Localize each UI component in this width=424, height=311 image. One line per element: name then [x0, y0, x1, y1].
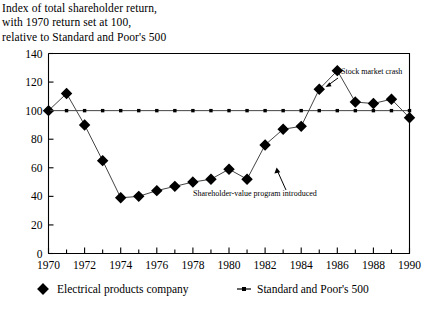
- x-axis-tick-labels: 1970197219741976197819801982198419861988…: [37, 259, 421, 271]
- chart-svg: 020406080100120140 197019721974197619781…: [0, 0, 424, 311]
- data-point: [98, 156, 107, 165]
- svg-text:1974: 1974: [109, 259, 132, 271]
- legend-marker-diamond: [38, 284, 48, 294]
- data-point: [152, 186, 161, 195]
- svg-text:20: 20: [31, 219, 43, 231]
- data-point: [297, 122, 306, 131]
- data-point: [188, 177, 197, 186]
- data-point: [224, 165, 233, 174]
- svg-text:1988: 1988: [362, 259, 385, 271]
- svg-text:40: 40: [31, 190, 43, 202]
- svg-text:140: 140: [25, 48, 43, 60]
- data-point: [281, 109, 284, 112]
- data-point: [47, 109, 50, 112]
- data-series-layer: [44, 66, 414, 202]
- data-point: [408, 109, 411, 112]
- data-point: [263, 109, 266, 112]
- legend-label: Standard and Poor's 500: [257, 283, 369, 295]
- chart-container: Index of total shareholder return, with …: [0, 0, 424, 311]
- data-point: [65, 109, 68, 112]
- legend-marker-square: [242, 287, 246, 291]
- svg-text:1972: 1972: [73, 259, 96, 271]
- data-point: [155, 109, 158, 112]
- svg-text:1980: 1980: [218, 259, 241, 271]
- svg-text:1970: 1970: [37, 259, 60, 271]
- data-point: [351, 97, 360, 106]
- data-point: [336, 109, 339, 112]
- svg-text:1978: 1978: [181, 259, 204, 271]
- svg-text:60: 60: [31, 162, 43, 174]
- svg-text:1976: 1976: [145, 259, 168, 271]
- svg-text:1986: 1986: [326, 259, 349, 271]
- data-point: [242, 175, 251, 184]
- data-point: [227, 109, 230, 112]
- plot-frame: [49, 54, 410, 254]
- data-point: [318, 109, 321, 112]
- data-point: [245, 109, 248, 112]
- data-point: [83, 109, 86, 112]
- annotation-layer: Stock market crashShareholder-value prog…: [193, 67, 402, 198]
- data-point: [119, 109, 122, 112]
- legend-item-electrical-products-company: Electrical products company: [38, 283, 189, 296]
- data-point: [191, 109, 194, 112]
- chart-legend: Electrical products companyStandard and …: [38, 283, 369, 296]
- data-point: [209, 109, 212, 112]
- data-point: [80, 120, 89, 129]
- svg-text:80: 80: [31, 133, 43, 145]
- annotation-shareholder-value-program: Shareholder-value program introduced: [193, 189, 317, 198]
- legend-item-standard-and-poors-500: Standard and Poor's 500: [237, 283, 369, 295]
- annotation-stock-market-crash: Stock market crash: [341, 67, 402, 76]
- data-point: [372, 109, 375, 112]
- data-point: [300, 109, 303, 112]
- data-point: [116, 193, 125, 202]
- data-point: [101, 109, 104, 112]
- svg-text:120: 120: [25, 76, 43, 88]
- svg-text:1982: 1982: [254, 259, 277, 271]
- svg-text:100: 100: [25, 105, 43, 117]
- axis-tick-marks: [49, 54, 410, 254]
- legend-label: Electrical products company: [57, 283, 189, 296]
- data-point: [137, 109, 140, 112]
- data-point: [206, 175, 215, 184]
- data-point: [173, 109, 176, 112]
- svg-text:1984: 1984: [290, 259, 313, 271]
- y-axis-tick-labels: 020406080100120140: [25, 48, 43, 260]
- svg-text:1990: 1990: [398, 259, 421, 271]
- data-point: [134, 192, 143, 201]
- data-point: [390, 109, 393, 112]
- data-point: [170, 182, 179, 191]
- data-point: [354, 109, 357, 112]
- data-point: [369, 99, 378, 108]
